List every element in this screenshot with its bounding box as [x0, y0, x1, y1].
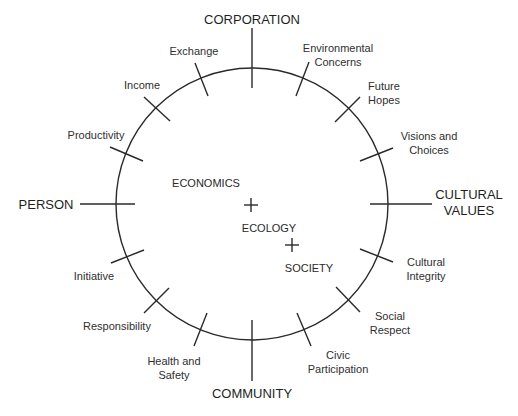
axis-label-community: COMMUNITY	[192, 386, 312, 402]
tick-label-future-hopes: Future Hopes	[356, 79, 412, 107]
tick-label-income: Income	[114, 78, 170, 92]
tick-health-and-safety	[194, 313, 207, 346]
tick-label-social-respect: Social Respect	[362, 309, 418, 337]
tick-initiative	[111, 250, 144, 263]
tick-label-exchange: Exchange	[158, 44, 230, 58]
center-label-ecology: ECOLOGY	[234, 221, 304, 235]
center-label-economics: ECONOMICS	[166, 176, 246, 190]
tick-label-cultural-integrity: Cultural Integrity	[396, 255, 456, 283]
axis-label-cultural-values: CULTURAL VALUES	[428, 187, 510, 219]
tick-label-responsibility: Responsibility	[74, 319, 160, 333]
axis-label-corporation: CORPORATION	[192, 12, 312, 28]
circular-diagram: CORPORATION COMMUNITY PERSON CULTURAL VA…	[0, 0, 518, 416]
axis-label-person: PERSON	[14, 197, 78, 213]
center-label-society: SOCIETY	[274, 261, 344, 275]
tick-productivity	[110, 147, 143, 161]
tick-label-civic-participation: Civic Participation	[298, 348, 378, 376]
tick-label-environmental-concerns: Environmental Concerns	[296, 41, 380, 69]
tick-label-productivity: Productivity	[60, 128, 132, 142]
tick-label-visions-and-choices: Visions and Choices	[389, 129, 469, 157]
tick-civic-participation	[297, 313, 311, 346]
tick-label-initiative: Initiative	[66, 269, 122, 283]
tick-label-health-and-safety: Health and Safety	[136, 354, 212, 382]
